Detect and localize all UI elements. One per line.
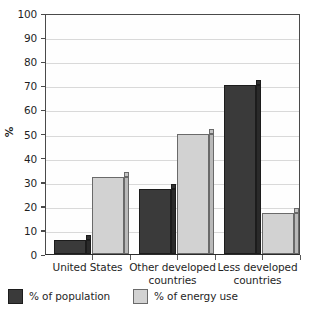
bar-side-face — [86, 240, 91, 254]
bar-front-face — [177, 134, 209, 255]
x-axis-tick-mark — [262, 255, 263, 260]
plot-area — [45, 14, 300, 255]
x-axis-tick-mark — [215, 255, 216, 260]
bar — [262, 208, 299, 254]
gridline — [46, 39, 299, 40]
y-axis-tick-label: 70 — [11, 80, 37, 92]
legend-label: % of energy use — [154, 290, 238, 302]
bar-side-face — [209, 134, 214, 255]
bar — [139, 184, 176, 254]
legend-label: % of population — [29, 290, 110, 302]
x-axis-tick-mark — [177, 255, 178, 260]
bar-front-face — [54, 240, 86, 254]
bar-side-face — [256, 85, 261, 254]
bar — [177, 129, 214, 255]
bar — [92, 172, 129, 254]
bar-front-face — [262, 213, 294, 254]
y-axis-tick-label: 50 — [11, 129, 37, 141]
y-axis-tick-label: 10 — [11, 225, 37, 237]
gridline — [46, 87, 299, 88]
bar-side-face — [124, 177, 129, 254]
bar-front-face — [92, 177, 124, 254]
y-axis-tick-label: 100 — [11, 8, 37, 20]
gridline — [46, 63, 299, 64]
x-axis-tick-mark — [130, 255, 131, 260]
gridline — [46, 111, 299, 112]
x-axis-tick-mark — [92, 255, 93, 260]
x-axis-category-label-line: countries — [207, 274, 308, 287]
bar — [54, 235, 91, 254]
x-axis-category-label: Less developedcountries — [207, 261, 308, 286]
gridline — [46, 136, 299, 137]
y-axis-tick-label: 40 — [11, 153, 37, 165]
bar-chart: % 1009080706050403020100 United StatesOt… — [0, 0, 312, 323]
legend-swatch — [8, 289, 23, 304]
y-axis-tick-label: 20 — [11, 201, 37, 213]
y-axis-tick-label: 30 — [11, 177, 37, 189]
x-axis-tick-mark — [300, 255, 301, 260]
bar-side-face — [171, 189, 176, 254]
y-axis-tick-label: 60 — [11, 104, 37, 116]
bar — [224, 80, 261, 254]
gridline — [46, 160, 299, 161]
y-axis-tick-label: 0 — [11, 249, 37, 261]
bar-front-face — [139, 189, 171, 254]
legend-swatch — [133, 289, 148, 304]
x-axis-category-label-line: Less developed — [207, 261, 308, 274]
bar-front-face — [224, 85, 256, 254]
y-axis-tick-label: 90 — [11, 32, 37, 44]
bar-side-face — [294, 213, 299, 254]
y-axis-tick-label: 80 — [11, 56, 37, 68]
